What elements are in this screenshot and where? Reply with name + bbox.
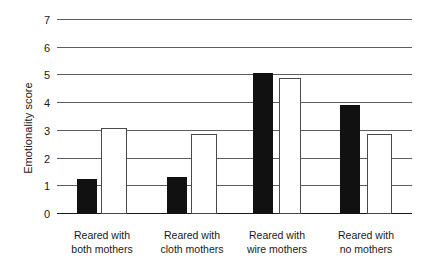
bar-filled-group-3	[253, 73, 273, 214]
plot-area: 01234567	[57, 20, 412, 214]
x-label-group-1: Reared withboth mothers	[52, 228, 152, 256]
x-label-group-3-line-1: Reared with	[227, 228, 327, 242]
bar-open-group-3	[279, 78, 301, 214]
x-label-group-3-line-2: wire mothers	[227, 242, 327, 256]
bar-open-group-1	[101, 128, 127, 214]
x-label-group-4-line-1: Reared with	[316, 228, 416, 242]
x-label-group-1-line-2: both mothers	[52, 242, 152, 256]
x-axis-category-labels: Reared withboth mothersReared withcloth …	[57, 228, 412, 268]
x-label-group-1-line-1: Reared with	[52, 228, 152, 242]
x-label-group-4-line-2: no mothers	[316, 242, 416, 256]
y-tick-label-0: 0	[44, 209, 50, 220]
y-tick-label-1: 1	[44, 181, 50, 192]
x-label-group-3: Reared withwire mothers	[227, 228, 327, 256]
y-tick-label-3: 3	[44, 125, 50, 136]
y-tick-label-2: 2	[44, 153, 50, 164]
x-label-group-4: Reared withno mothers	[316, 228, 416, 256]
bar-open-group-4	[367, 134, 392, 214]
y-tick-label-6: 6	[44, 42, 50, 53]
bar-filled-group-4	[340, 105, 360, 214]
y-tick-label-7: 7	[44, 15, 50, 26]
emotionality-score-bar-chart: Emotionality score 01234567 Reared withb…	[0, 0, 422, 271]
bar-open-group-2	[191, 134, 217, 214]
bar-filled-group-1	[77, 179, 97, 214]
bar-series-group	[57, 20, 412, 214]
y-axis-title: Emotionality score	[22, 48, 34, 208]
bar-filled-group-2	[167, 177, 187, 214]
y-tick-label-4: 4	[44, 98, 50, 109]
y-tick-label-5: 5	[44, 70, 50, 81]
